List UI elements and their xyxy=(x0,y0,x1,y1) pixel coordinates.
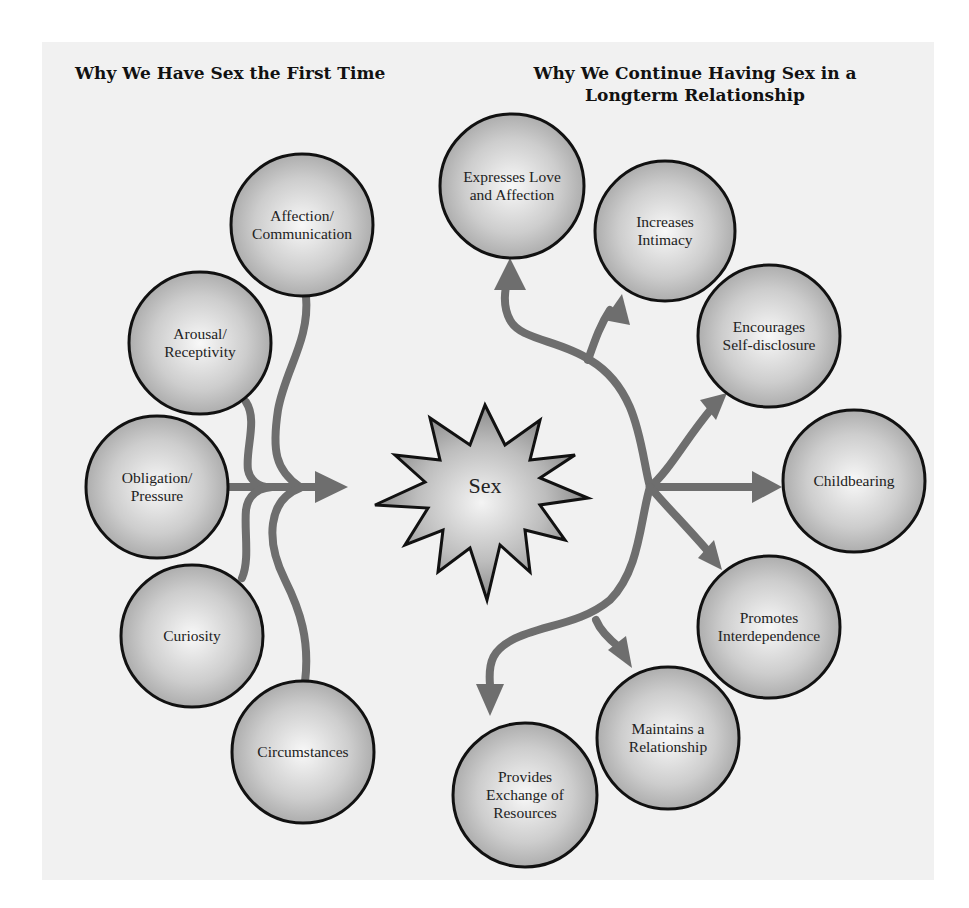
label-love: Expresses Love and Affection xyxy=(463,168,561,204)
label-interdependence: Promotes Interdependence xyxy=(718,609,820,645)
connector-affection xyxy=(275,296,306,487)
label-relationship: Maintains a Relationship xyxy=(629,720,707,756)
label-selfdisclosure: Encourages Self-disclosure xyxy=(723,318,816,354)
label-arousal: Arousal/ Receptivity xyxy=(164,325,235,361)
label-curiosity: Curiosity xyxy=(163,627,221,645)
label-circumstances: Circumstances xyxy=(257,743,348,761)
connector-circumstances xyxy=(272,488,306,682)
left-arrowhead-icon xyxy=(315,471,348,503)
center-label-sex: Sex xyxy=(469,473,502,499)
connector-arousal xyxy=(246,402,270,487)
label-affection: Affection/ Communication xyxy=(252,207,352,243)
arrowhead-love-icon xyxy=(494,258,526,290)
connector-interdependence xyxy=(650,487,712,556)
label-resources: Provides Exchange of Resources xyxy=(486,768,564,822)
diagram-canvas xyxy=(0,0,969,908)
label-obligation: Obligation/ Pressure xyxy=(122,469,193,505)
connector-curiosity xyxy=(242,487,272,578)
label-childbearing: Childbearing xyxy=(814,472,895,490)
arrowhead-childbearing-icon xyxy=(752,471,782,503)
arrowhead-resources-icon xyxy=(476,684,504,716)
starburst-icon xyxy=(375,405,588,600)
label-intimacy: Increases Intimacy xyxy=(636,213,694,249)
connector-selfdisclosure xyxy=(650,408,712,487)
